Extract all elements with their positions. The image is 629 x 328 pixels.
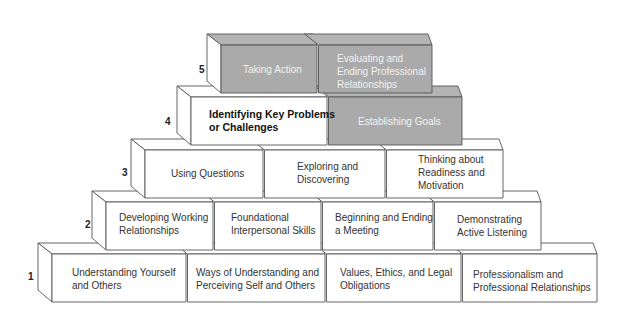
block-exploring-discovering: Exploring and Discovering bbox=[297, 160, 358, 186]
block-face bbox=[207, 34, 221, 93]
block-face bbox=[207, 34, 317, 45]
block-demonstrating-active-listening: Demonstrating Active Listening bbox=[457, 213, 527, 239]
block-using-questions: Using Questions bbox=[171, 167, 244, 180]
block-foundational-interpersonal-skills: Foundational Interpersonal Skills bbox=[231, 211, 315, 237]
block-beginning-ending-meeting: Beginning and Ending a Meeting bbox=[335, 211, 433, 237]
block-understanding-yourself: Understanding Yourself and Others bbox=[72, 266, 175, 292]
block-face bbox=[177, 86, 191, 145]
block-values-ethics-legal: Values, Ethics, and Legal Obligations bbox=[340, 266, 452, 292]
block-taking-action: Taking Action bbox=[243, 63, 302, 76]
level-number-4: 4 bbox=[165, 116, 171, 127]
block-identifying-key-problems: Identifying Key Problems or Challenges bbox=[209, 108, 335, 134]
block-developing-working-relationships: Developing Working Relationships bbox=[119, 211, 208, 237]
level-number-5: 5 bbox=[199, 64, 205, 75]
block-face bbox=[305, 34, 433, 45]
level-number-2: 2 bbox=[85, 219, 91, 230]
pyramid-diagram: 5 4 3 2 1 Taking Action Evaluating and E… bbox=[0, 0, 629, 328]
block-thinking-readiness: Thinking about Readiness and Motivation bbox=[418, 153, 485, 192]
block-ways-of-understanding: Ways of Understanding and Perceiving Sel… bbox=[196, 266, 319, 292]
level-number-3: 3 bbox=[122, 167, 128, 178]
block-face bbox=[38, 243, 52, 302]
block-face bbox=[131, 139, 145, 198]
block-establishing-goals: Establishing Goals bbox=[358, 115, 441, 128]
block-professionalism-relationships: Professionalism and Professional Relatio… bbox=[473, 268, 591, 294]
block-face bbox=[92, 191, 106, 250]
level-number-1: 1 bbox=[28, 271, 34, 282]
block-evaluating-ending-relationships: Evaluating and Ending Professional Relat… bbox=[337, 52, 426, 91]
